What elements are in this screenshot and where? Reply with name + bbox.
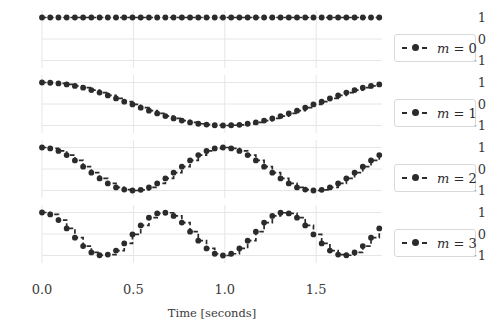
- data-point-marker: [327, 96, 333, 102]
- data-point-marker: [162, 176, 168, 182]
- data-point-marker: [47, 15, 53, 21]
- data-point-marker: [294, 215, 300, 221]
- data-point-marker: [146, 15, 152, 21]
- legend-item-label: m = 1: [437, 106, 477, 121]
- data-point-marker: [237, 148, 243, 154]
- data-point-marker: [302, 105, 308, 111]
- data-point-marker: [269, 15, 275, 21]
- figure-canvas: 10−110−110−110−1 0.00.51.01.5 Time [seco…: [0, 0, 486, 329]
- data-point-marker: [278, 210, 284, 216]
- data-point-marker: [278, 113, 284, 119]
- data-point-marker: [162, 210, 168, 216]
- legend-item-0[interactable]: m = 0: [394, 34, 476, 62]
- data-point-marker: [179, 15, 185, 21]
- legend-item-3[interactable]: m = 3: [394, 229, 476, 257]
- data-point-marker: [130, 232, 136, 238]
- legend-item-1[interactable]: m = 1: [394, 99, 476, 127]
- legend-item-label: m = 3: [437, 236, 477, 251]
- data-point-marker: [319, 241, 325, 247]
- data-point-marker: [187, 158, 193, 164]
- data-point-marker: [97, 252, 103, 258]
- data-point-marker: [352, 250, 358, 256]
- data-point-marker: [138, 15, 144, 21]
- data-point-marker: [138, 105, 144, 111]
- data-point-marker: [269, 170, 275, 176]
- data-point-marker: [335, 93, 341, 99]
- data-point-marker: [228, 122, 234, 128]
- data-point-marker: [105, 252, 111, 258]
- data-point-marker: [195, 121, 201, 127]
- data-point-marker: [121, 187, 127, 193]
- data-point-marker: [212, 122, 218, 128]
- data-point-marker: [327, 248, 333, 254]
- data-point-marker: [113, 185, 119, 191]
- data-point-marker: [154, 180, 160, 186]
- data-point-marker: [130, 188, 136, 194]
- data-point-marker: [162, 113, 168, 119]
- data-point-marker: [105, 180, 111, 186]
- data-point-marker: [171, 115, 177, 121]
- data-point-marker: [64, 82, 70, 88]
- legend-item-label: m = 2: [437, 171, 477, 186]
- data-point-marker: [162, 15, 168, 21]
- x-tick-label: 0.0: [22, 283, 62, 296]
- data-point-marker: [286, 111, 292, 117]
- data-point-marker: [88, 15, 94, 21]
- data-point-marker: [294, 15, 300, 21]
- data-point-marker: [368, 235, 374, 241]
- legend-marker-icon: [402, 172, 428, 184]
- data-point-marker: [97, 90, 103, 96]
- data-point-marker: [97, 15, 103, 21]
- data-point-marker: [220, 145, 226, 151]
- data-point-marker: [56, 15, 62, 21]
- data-point-marker: [343, 176, 349, 182]
- data-point-marker: [294, 108, 300, 114]
- data-point-marker: [376, 15, 382, 21]
- x-tick-label: 1.5: [296, 283, 336, 296]
- data-point-marker: [228, 145, 234, 151]
- data-point-marker: [286, 15, 292, 21]
- data-point-marker: [204, 122, 210, 128]
- data-point-marker: [88, 87, 94, 93]
- data-point-marker: [39, 80, 45, 86]
- data-point-marker: [286, 210, 292, 216]
- data-point-marker: [39, 15, 45, 21]
- data-point-marker: [195, 238, 201, 244]
- data-point-marker: [39, 210, 45, 216]
- data-point-marker: [327, 185, 333, 191]
- data-point-marker: [343, 252, 349, 258]
- data-point-marker: [72, 15, 78, 21]
- data-point-marker: [130, 102, 136, 108]
- data-point-marker: [327, 15, 333, 21]
- data-point-marker: [154, 210, 160, 216]
- data-point-marker: [212, 145, 218, 151]
- data-point-marker: [154, 15, 160, 21]
- data-point-marker: [376, 226, 382, 232]
- data-point-marker: [376, 152, 382, 158]
- legend-marker-icon: [402, 107, 428, 119]
- data-point-marker: [171, 170, 177, 176]
- data-point-marker: [187, 229, 193, 235]
- data-point-marker: [80, 243, 86, 249]
- data-point-marker: [253, 120, 259, 126]
- data-point-marker: [88, 250, 94, 256]
- data-point-marker: [56, 80, 62, 86]
- data-point-marker: [302, 223, 308, 229]
- data-point-marker: [72, 158, 78, 164]
- data-point-marker: [130, 15, 136, 21]
- data-point-marker: [343, 90, 349, 96]
- data-point-marker: [261, 164, 267, 170]
- data-point-marker: [319, 15, 325, 21]
- data-point-marker: [64, 15, 70, 21]
- data-point-marker: [220, 253, 226, 259]
- legend-item-2[interactable]: m = 2: [394, 164, 476, 192]
- data-point-marker: [376, 82, 382, 88]
- data-point-marker: [228, 251, 234, 257]
- data-point-marker: [113, 96, 119, 102]
- data-point-marker: [335, 252, 341, 258]
- data-point-marker: [253, 229, 259, 235]
- data-point-marker: [80, 164, 86, 170]
- data-point-marker: [97, 176, 103, 182]
- data-point-marker: [204, 245, 210, 251]
- data-point-marker: [56, 148, 62, 154]
